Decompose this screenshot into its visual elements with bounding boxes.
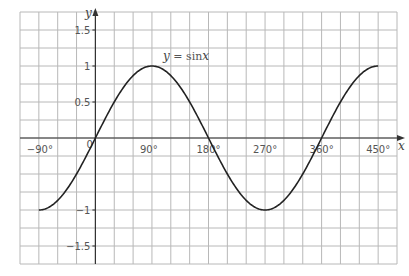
- y-tick-label: 0.5: [74, 97, 90, 108]
- x-tick-label: −90°: [27, 144, 53, 155]
- x-tick-label: 450°: [366, 144, 390, 155]
- y-axis-label: y: [84, 6, 92, 20]
- axes: [20, 8, 405, 264]
- x-axis-label: x: [398, 139, 405, 153]
- sine-chart: −90°090°180°270°360°450° 1.510.5−1−1.5 x…: [0, 0, 409, 276]
- x-tick-label: 90°: [140, 144, 158, 155]
- x-tick-label: 270°: [253, 144, 277, 155]
- y-tick-label: −1: [76, 205, 91, 216]
- y-tick-label: 1.5: [74, 25, 90, 36]
- curve-label-x: x: [202, 49, 209, 63]
- curve-label: y = sinx: [162, 49, 209, 63]
- y-tick-label: −1.5: [66, 241, 90, 252]
- y-tick-label: 1: [84, 61, 90, 72]
- curve-label-eq: = sin: [170, 50, 202, 63]
